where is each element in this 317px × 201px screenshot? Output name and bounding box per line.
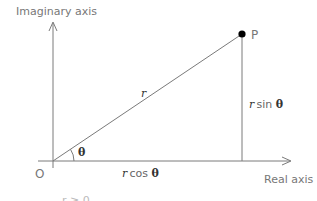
footnote-partial: r ≥ 0 xyxy=(62,195,90,201)
sin-function: sin xyxy=(256,98,272,111)
r-cos-theta-label: r cos θ xyxy=(122,168,159,179)
real-axis-label: Real axis xyxy=(264,174,313,185)
radius-line xyxy=(53,34,242,161)
r-variable: r xyxy=(122,167,127,180)
origin-label: O xyxy=(35,168,44,180)
radius-variable: r xyxy=(141,87,146,100)
imaginary-axis xyxy=(49,22,57,168)
r-sin-theta-label: r sin θ xyxy=(249,99,283,110)
imaginary-axis-label: Imaginary axis xyxy=(16,6,97,17)
real-axis xyxy=(38,157,291,165)
point-p-label: P xyxy=(251,29,258,41)
cos-function: cos xyxy=(129,167,148,180)
radius-label: r xyxy=(141,88,146,99)
angle-theta-label: θ xyxy=(78,147,85,158)
polar-form-diagram: Imaginary axis P r r sin θ θ O r cos θ R… xyxy=(0,0,317,201)
theta-symbol: θ xyxy=(151,167,158,180)
theta-symbol: θ xyxy=(276,98,283,111)
point-p-dot xyxy=(238,30,245,37)
angle-arc xyxy=(71,149,75,161)
r-variable: r xyxy=(249,98,254,111)
